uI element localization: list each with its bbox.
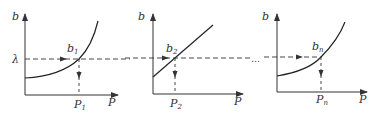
down-arrow-icon [319,70,324,77]
ellipsis: … [251,54,260,64]
curve-n [277,22,345,76]
y-axis-label: b [138,10,145,23]
right-arrow-icon [60,57,67,62]
panel-n: b P bn Pn [262,10,367,107]
point-label-1: b1 [67,42,79,56]
x-axis-label: P [233,95,242,108]
p-label-1: P1 [73,98,86,112]
p-label-n: Pn [315,93,328,107]
p-label-2: P2 [169,97,182,111]
down-arrow-icon [77,72,82,79]
panel-1: b P λ b1 P1 [11,10,118,112]
y-axis-label: b [12,10,19,23]
x-axis-label: P [358,93,367,106]
lambda-label: λ [11,53,19,66]
point-label-n: bn [312,40,324,54]
curve-1 [25,21,98,78]
point-label-2: b2 [166,42,178,56]
x-axis-label: P [107,96,116,109]
right-arrow-icon [296,55,303,60]
line-2 [153,25,213,77]
panel-2: b P b2 P2 [138,10,243,111]
right-arrow-icon [162,56,169,61]
y-axis-label: b [262,10,269,23]
iteration-diagram: b P λ b1 P1 b P b2 P2 b P bn Pn … [0,0,379,114]
down-arrow-icon [173,71,178,78]
